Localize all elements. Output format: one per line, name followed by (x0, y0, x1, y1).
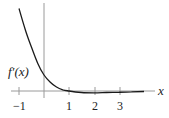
curve-f-prime (19, 9, 144, 93)
tick-label-2: 2 (92, 99, 98, 113)
tick-label-1: 1 (66, 99, 72, 113)
tick-label-minus-1: −1 (13, 99, 26, 113)
x-axis-label: x (157, 83, 164, 98)
tick-label-3: 3 (117, 99, 123, 113)
curve-label: f′(x) (8, 64, 29, 79)
chart: f′(x) x −1 1 2 3 (0, 0, 169, 118)
